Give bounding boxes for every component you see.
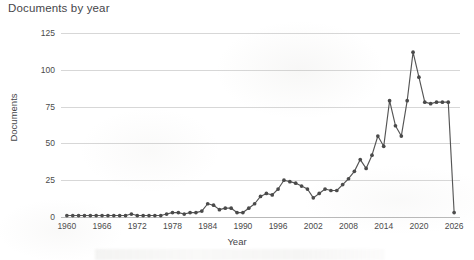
x-axis-line xyxy=(61,217,460,218)
data-point-marker xyxy=(441,100,445,104)
data-point-marker xyxy=(235,211,239,215)
data-point-marker xyxy=(370,153,374,157)
data-point-marker xyxy=(288,180,292,184)
data-point-marker xyxy=(335,189,339,193)
y-tick-label: 75 xyxy=(9,102,55,112)
data-point-marker xyxy=(452,211,456,215)
y-tick-label: 125 xyxy=(9,28,55,38)
data-point-marker xyxy=(182,212,186,216)
data-point-marker xyxy=(276,187,280,191)
data-point-marker xyxy=(247,206,251,210)
data-point-marker xyxy=(177,211,181,215)
data-point-marker xyxy=(147,214,151,218)
data-point-marker xyxy=(212,203,216,207)
data-point-marker xyxy=(329,189,333,193)
data-point-marker xyxy=(88,214,92,218)
x-axis-label: Year xyxy=(0,236,474,247)
data-point-marker xyxy=(165,212,169,216)
data-point-marker xyxy=(311,196,315,200)
x-tick-label: 2026 xyxy=(432,221,474,231)
data-point-marker xyxy=(353,170,357,174)
data-point-marker xyxy=(124,214,128,218)
data-point-marker xyxy=(270,193,274,197)
data-point-marker xyxy=(135,214,139,218)
data-point-marker xyxy=(229,206,233,210)
y-tick-label: 100 xyxy=(9,65,55,75)
data-point-marker xyxy=(323,187,327,191)
data-point-marker xyxy=(83,214,87,218)
data-point-marker xyxy=(218,208,222,212)
x-axis-tick-labels: 1960196619721978198419901996200220082014… xyxy=(61,221,460,235)
chart-figure: Documents by year Documents 125100755025… xyxy=(0,0,474,260)
data-point-marker xyxy=(112,214,116,218)
y-tick-label: 50 xyxy=(9,138,55,148)
data-point-marker xyxy=(417,75,421,79)
data-point-marker xyxy=(388,99,392,103)
data-point-marker xyxy=(300,184,304,188)
data-point-marker xyxy=(100,214,104,218)
data-point-marker xyxy=(405,99,409,103)
data-point-marker xyxy=(71,214,75,218)
data-point-marker xyxy=(141,214,145,218)
data-point-marker xyxy=(282,178,286,182)
y-tick-label: 25 xyxy=(9,175,55,185)
data-point-marker xyxy=(223,206,227,210)
documents-line-series xyxy=(61,33,460,217)
data-point-marker xyxy=(206,202,210,206)
data-point-marker xyxy=(118,214,122,218)
data-point-marker xyxy=(188,211,192,215)
plot-area xyxy=(61,33,460,217)
data-point-marker xyxy=(364,167,368,171)
data-point-marker xyxy=(376,134,380,138)
data-point-marker xyxy=(159,214,163,218)
data-point-marker xyxy=(382,144,386,148)
data-point-marker xyxy=(259,195,263,199)
data-point-marker xyxy=(94,214,98,218)
data-point-marker xyxy=(200,209,204,213)
data-point-marker xyxy=(429,102,433,106)
data-point-marker xyxy=(241,211,245,215)
series-line xyxy=(67,52,454,215)
data-point-marker xyxy=(347,177,351,181)
bottom-scan-artifact xyxy=(95,249,385,260)
data-point-marker xyxy=(446,100,450,104)
data-point-marker xyxy=(399,134,403,138)
data-point-marker xyxy=(65,214,69,218)
data-point-marker xyxy=(358,158,362,162)
data-point-marker xyxy=(265,192,269,196)
data-point-marker xyxy=(77,214,81,218)
data-point-marker xyxy=(435,100,439,104)
data-point-marker xyxy=(153,214,157,218)
data-point-marker xyxy=(341,183,345,187)
chart-title: Documents by year xyxy=(8,2,110,14)
data-point-marker xyxy=(106,214,110,218)
data-point-marker xyxy=(294,181,298,185)
data-point-marker xyxy=(306,187,310,191)
data-point-marker xyxy=(317,192,321,196)
data-point-marker xyxy=(130,212,134,216)
data-point-marker xyxy=(171,211,175,215)
data-point-marker xyxy=(194,211,198,215)
data-point-marker xyxy=(423,100,427,104)
data-point-marker xyxy=(253,202,257,206)
data-point-marker xyxy=(394,124,398,128)
y-axis-tick-labels: 1251007550250 xyxy=(5,33,55,217)
data-point-marker xyxy=(411,50,415,54)
